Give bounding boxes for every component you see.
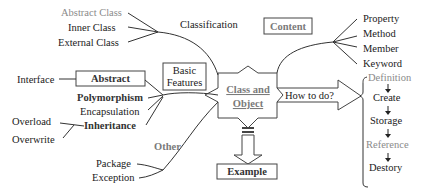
center-star-shape (205, 66, 287, 128)
arrow-stripe (242, 131, 254, 133)
classification-branch: Classification Abstract Class Inner Clas… (58, 7, 238, 75)
item-keyword: Keyword (363, 58, 403, 69)
item-external-class: External Class (58, 37, 119, 48)
how-to-do-label: How to do? (285, 90, 334, 101)
item-exception: Exception (92, 172, 135, 183)
item-inheritance: Inheritance (84, 120, 136, 131)
example-branch: Example (217, 127, 277, 179)
connector-abstract (145, 80, 163, 95)
item-member: Member (363, 43, 399, 54)
down-arrow-icon (385, 106, 391, 115)
basic-features-line1: Basic (173, 65, 197, 76)
connector-package (137, 164, 163, 170)
basic-features-line2: Features (167, 77, 203, 88)
down-arrow-icon (385, 153, 391, 162)
step-destory: Destory (369, 162, 403, 173)
connector-overload (60, 123, 84, 126)
content-label: Content (270, 21, 307, 32)
content-branch: Content Property Method Member Keyword (264, 13, 403, 73)
example-label: Example (227, 166, 267, 177)
example-down-arrow (234, 135, 262, 164)
center-node: Class and Object (205, 66, 287, 128)
abstract-label: Abstract (91, 73, 131, 84)
down-arrow-icon (385, 129, 391, 138)
step-reference: Reference (366, 139, 409, 150)
item-property: Property (363, 13, 400, 24)
step-definition: Definition (368, 72, 412, 83)
item-method: Method (363, 28, 396, 39)
item-abstract-class: Abstract Class (61, 7, 122, 18)
center-title-line2: Object (233, 98, 264, 109)
item-polymorphism: Polymorphism (77, 92, 143, 103)
step-create: Create (373, 92, 401, 103)
step-storage: Storage (370, 115, 402, 126)
item-encapsulation: Encapsulation (80, 106, 140, 117)
center-title-line1: Class and (226, 84, 270, 95)
connector-overwrite (63, 125, 74, 138)
item-package: Package (96, 158, 131, 169)
item-overload: Overload (12, 116, 52, 127)
connector-member (333, 42, 357, 47)
basic-features-branch: Basic Features Abstract Interface Polymo… (12, 63, 218, 145)
lifecycle-bracket (360, 77, 368, 187)
classification-label: Classification (180, 19, 238, 30)
arrow-stripe (242, 127, 254, 129)
how-to-do-branch: How to do? Definition Create Storage Ref… (277, 72, 412, 187)
connector-encapsulation (148, 96, 163, 110)
item-overwrite: Overwrite (12, 134, 55, 145)
item-inner-class: Inner Class (68, 22, 116, 33)
content-connector (277, 42, 333, 73)
other-label: Other (154, 141, 181, 152)
other-connector (163, 102, 218, 170)
connector-inheritance (146, 97, 163, 125)
item-interface: Interface (17, 74, 55, 85)
class-and-object-mindmap: Class and Object Classification Abstract… (0, 0, 427, 194)
connector-exception (139, 170, 163, 178)
connector-keyword (333, 42, 357, 64)
connector-external-class (128, 32, 158, 42)
